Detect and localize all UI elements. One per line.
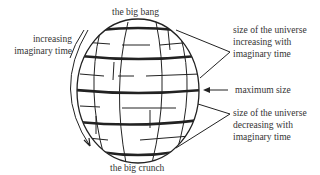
size-decreasing-label: size of the universe decreasing with ima… [233,107,307,143]
increasing-imaginary-time-label: increasing imaginary time [12,33,72,57]
maximum-size-label: maximum size [235,84,291,96]
size-increasing-label: size of the universe increasing with ima… [233,24,307,60]
big-bang-label: the big bang [112,6,159,18]
big-crunch-label: the big crunch [110,162,164,174]
